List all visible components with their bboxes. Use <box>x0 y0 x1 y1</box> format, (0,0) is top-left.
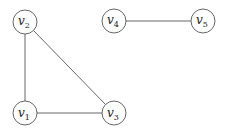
node-v2-sub: 2 <box>25 21 30 30</box>
node-v2: v2 <box>13 10 37 34</box>
node-v1: v1 <box>13 101 37 125</box>
node-v3: v3 <box>102 101 126 125</box>
edges <box>25 21 191 113</box>
graph-diagram: v1 v2 v3 v4 v5 <box>0 0 227 133</box>
node-v5-sub: 5 <box>203 20 208 29</box>
node-v5: v5 <box>191 9 215 33</box>
edge-v2-v3 <box>34 31 106 105</box>
nodes: v1 v2 v3 v4 v5 <box>13 9 215 125</box>
node-v4: v4 <box>102 9 126 33</box>
node-v4-sub: 4 <box>114 20 119 29</box>
node-v1-sub: 1 <box>25 113 30 122</box>
node-v3-sub: 3 <box>114 113 119 122</box>
